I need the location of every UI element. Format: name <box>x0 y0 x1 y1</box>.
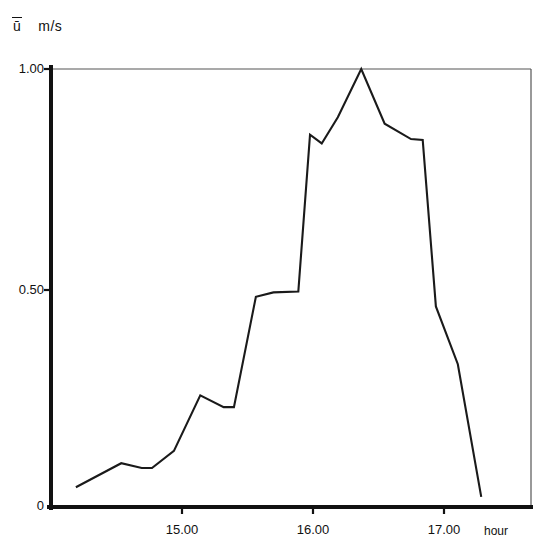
series-line-u <box>76 69 481 497</box>
plot-area <box>0 0 550 550</box>
chart-figure: ūm/s 1.00 0.50 0 15.00 16.00 17.00 hour <box>0 0 550 550</box>
